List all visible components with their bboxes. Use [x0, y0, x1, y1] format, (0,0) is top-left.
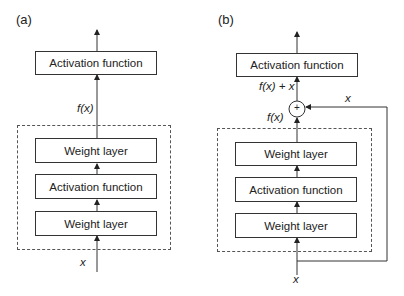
- panel-a-fx-label: f(x): [77, 102, 94, 114]
- panel-a-input-label: x: [80, 256, 86, 268]
- panel-a-label: (a): [16, 12, 32, 27]
- panel-a-output-activation-box: Activation function: [35, 51, 157, 75]
- panel-b-activation-box: Activation function: [235, 177, 357, 202]
- panel-b-skip-x-label: x: [345, 92, 351, 104]
- panel-a-weight-layer-1: Weight layer: [35, 138, 157, 163]
- panel-b-weight-layer-1: Weight layer: [235, 142, 357, 166]
- panel-b-weight-layer-2: Weight layer: [235, 213, 357, 238]
- plus-icon: +: [294, 102, 300, 113]
- panel-a-weight-layer-2: Weight layer: [35, 211, 157, 236]
- panel-b-input-label: x: [293, 273, 299, 285]
- panel-b-output-activation-box: Activation function: [236, 53, 358, 77]
- panel-b-label: (b): [218, 12, 234, 27]
- panel-a-activation-box: Activation function: [35, 174, 157, 199]
- panel-b-fx-label: f(x): [267, 111, 284, 123]
- panel-b-fx-plus-x-label: f(x) + x: [259, 80, 294, 92]
